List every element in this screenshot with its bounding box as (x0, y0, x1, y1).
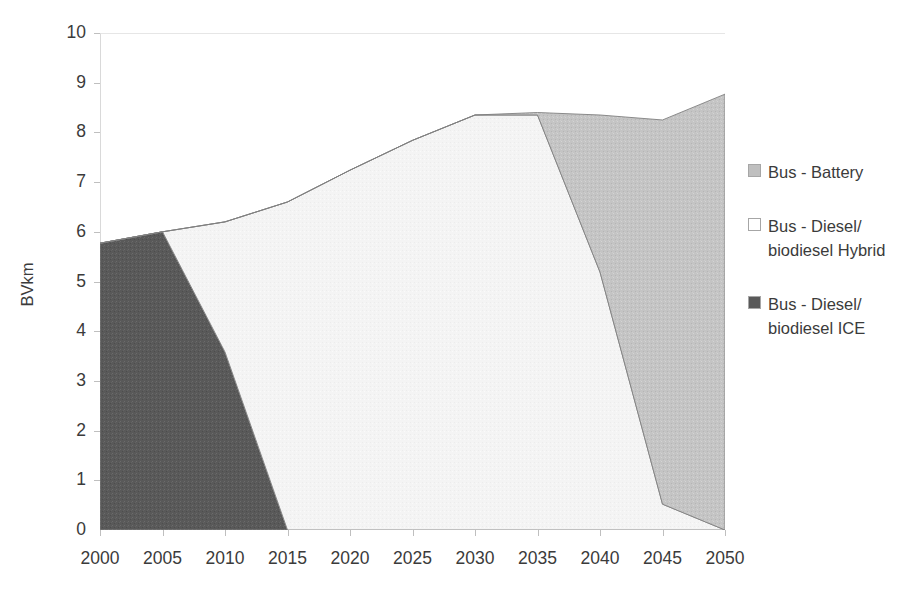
y-axis: BVkm 012345678910 (0, 0, 100, 611)
legend-swatch-icon (748, 296, 761, 309)
x-tick-mark (663, 530, 664, 536)
x-tick-label: 2040 (581, 549, 620, 568)
x-tick-mark (600, 530, 601, 536)
x-tick-mark (225, 530, 226, 536)
legend-label: Bus - Diesel/ biodiesel ICE (768, 292, 922, 340)
y-tick-label: 5 (76, 273, 86, 291)
y-tick-label: 8 (76, 123, 86, 141)
legend-label: Bus - Battery (768, 160, 863, 184)
plot-svg (100, 33, 725, 530)
y-tick-label: 7 (76, 173, 86, 191)
y-tick-label: 6 (76, 223, 86, 241)
x-tick-label: 2000 (81, 549, 120, 568)
legend-item[interactable]: Bus - Battery (748, 160, 922, 184)
y-tick-label: 2 (76, 422, 86, 440)
x-tick-label: 2010 (206, 549, 245, 568)
legend-item[interactable]: Bus - Diesel/ biodiesel ICE (748, 292, 922, 340)
x-tick-mark (100, 530, 101, 536)
x-tick-label: 2030 (456, 549, 495, 568)
y-tick-label: 4 (76, 322, 86, 340)
y-tick-label: 3 (76, 372, 86, 390)
x-axis: 2000200520102015202020252030203520402045… (0, 530, 922, 590)
x-tick-label: 2025 (393, 549, 432, 568)
legend-label: Bus - Diesel/ biodiesel Hybrid (768, 214, 922, 262)
x-tick-label: 2005 (143, 549, 182, 568)
x-tick-label: 2045 (643, 549, 682, 568)
x-tick-mark (538, 530, 539, 536)
y-axis-title: BVkm (18, 245, 37, 325)
stacked-area-chart: BVkm 012345678910 (0, 0, 922, 611)
x-tick-mark (288, 530, 289, 536)
x-tick-label: 2050 (706, 549, 745, 568)
y-tick-label: 9 (76, 74, 86, 92)
y-tick-label: 10 (67, 24, 86, 42)
chart-legend: Bus - BatteryBus - Diesel/ biodiesel Hyb… (748, 160, 922, 370)
legend-item[interactable]: Bus - Diesel/ biodiesel Hybrid (748, 214, 922, 262)
x-tick-label: 2015 (268, 549, 307, 568)
legend-swatch-icon (748, 164, 761, 177)
y-tick-label: 1 (76, 471, 86, 489)
x-tick-mark (725, 530, 726, 536)
x-tick-label: 2035 (518, 549, 557, 568)
x-tick-mark (350, 530, 351, 536)
plot-area (100, 33, 725, 530)
x-tick-mark (163, 530, 164, 536)
x-tick-mark (475, 530, 476, 536)
x-tick-label: 2020 (331, 549, 370, 568)
x-tick-mark (413, 530, 414, 536)
legend-swatch-icon (748, 218, 761, 231)
